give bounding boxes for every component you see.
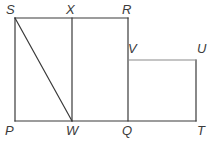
figure-canvas	[0, 0, 214, 144]
vertex-label-V: V	[128, 42, 137, 55]
vertex-label-P: P	[5, 124, 14, 137]
geometry-figure: SXRVUPWQT	[0, 0, 214, 144]
vertex-label-W: W	[66, 124, 78, 137]
segments-group	[15, 18, 196, 121]
vertex-label-T: T	[197, 124, 205, 137]
vertex-label-R: R	[122, 3, 131, 16]
vertex-label-Q: Q	[122, 124, 132, 137]
vertex-label-X: X	[66, 3, 75, 16]
vertex-label-U: U	[197, 42, 206, 55]
segment-SW-diagonal	[15, 18, 72, 121]
vertex-label-S: S	[6, 3, 15, 16]
